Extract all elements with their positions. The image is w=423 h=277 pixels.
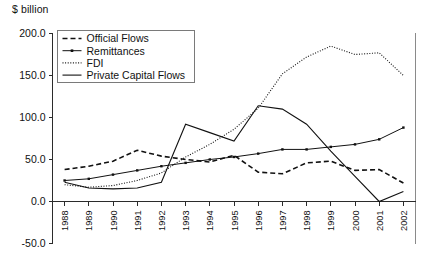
x-axis-tick-label: 2000 xyxy=(351,211,361,231)
series-remittances-marker xyxy=(88,178,90,180)
series-remittances-marker xyxy=(136,169,138,171)
legend-label-1: Official Flows xyxy=(87,32,149,44)
x-axis-tick-label: 1996 xyxy=(254,211,264,231)
series-remittances xyxy=(65,128,404,181)
x-axis-tick-label: 2002 xyxy=(399,211,409,231)
series-remittances-marker xyxy=(63,179,65,181)
x-axis-tick-label: 1999 xyxy=(326,211,336,231)
y-axis-tick-label: 50.0 xyxy=(25,153,46,165)
x-axis-tick-label: 1993 xyxy=(181,211,191,231)
line-chart-plot: 200.0150.0100.050.00.0-50.01988198919901… xyxy=(0,0,423,277)
y-axis-tick-label: 150.0 xyxy=(19,69,45,81)
series-remittances-marker xyxy=(281,148,283,150)
y-axis-tick-label: 100.0 xyxy=(19,111,45,123)
y-axis-tick-label: 0.0 xyxy=(31,195,46,207)
x-axis-tick-label: 1998 xyxy=(302,211,312,231)
series-remittances-marker xyxy=(330,146,332,148)
series-remittances-marker xyxy=(112,173,114,175)
series-remittances-marker xyxy=(160,165,162,167)
x-axis-tick-label: 1992 xyxy=(157,211,167,231)
x-axis-tick-label: 2001 xyxy=(375,211,385,231)
y-axis-tick-label: -50.0 xyxy=(22,237,46,249)
x-axis-tick-label: 1994 xyxy=(205,211,215,231)
x-axis-tick-label: 1990 xyxy=(109,211,119,231)
chart-container: $ billion 200.0150.0100.050.00.0-50.0198… xyxy=(0,0,423,277)
x-axis-tick-label: 1989 xyxy=(84,211,94,231)
y-axis-unit-label: $ billion xyxy=(12,3,49,15)
x-axis-tick-label: 1995 xyxy=(230,211,240,231)
legend-label-4: Private Capital Flows xyxy=(87,69,186,81)
series-official-flows xyxy=(65,150,404,183)
legend-swatch-marker xyxy=(71,49,74,52)
series-private-capital-flows xyxy=(65,106,404,202)
series-remittances-marker xyxy=(184,162,186,164)
series-remittances-marker xyxy=(209,158,211,160)
legend-label-2: Remittances xyxy=(87,45,145,57)
series-remittances-marker xyxy=(305,148,307,150)
series-remittances-marker xyxy=(402,126,404,128)
x-axis-tick-label: 1988 xyxy=(60,211,70,231)
series-remittances-marker xyxy=(378,138,380,140)
x-axis-tick-label: 1997 xyxy=(278,211,288,231)
series-remittances-marker xyxy=(233,156,235,158)
series-remittances-marker xyxy=(257,152,259,154)
y-axis-tick-label: 200.0 xyxy=(19,27,45,39)
x-axis-tick-label: 1991 xyxy=(133,211,143,231)
series-remittances-marker xyxy=(354,143,356,145)
legend-label-3: FDI xyxy=(87,57,104,69)
